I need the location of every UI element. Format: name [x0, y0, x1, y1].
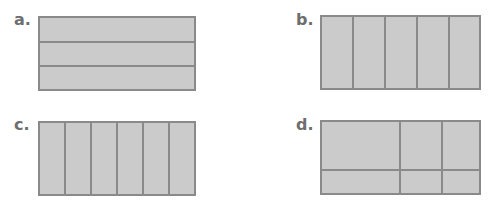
divider-line	[64, 123, 66, 194]
rectangle-d	[320, 120, 481, 195]
divider-line	[448, 17, 450, 88]
figure-d-label: d.	[296, 117, 314, 133]
divider-line	[441, 122, 443, 193]
divider-line	[416, 17, 418, 88]
divider-line	[116, 123, 118, 194]
figure-b-label: b.	[296, 12, 314, 28]
rectangle-b	[320, 15, 481, 90]
divider-line	[399, 122, 401, 193]
figure-a-label: a.	[14, 12, 31, 28]
divider-line	[40, 41, 194, 43]
divider-line	[322, 169, 479, 171]
divider-line	[142, 123, 144, 194]
divider-line	[384, 17, 386, 88]
rectangle-a	[38, 16, 196, 91]
divider-line	[40, 65, 194, 67]
rectangle-c	[38, 121, 196, 196]
divider-line	[352, 17, 354, 88]
figure-c-label: c.	[14, 117, 30, 133]
divider-line	[168, 123, 170, 194]
divider-line	[90, 123, 92, 194]
